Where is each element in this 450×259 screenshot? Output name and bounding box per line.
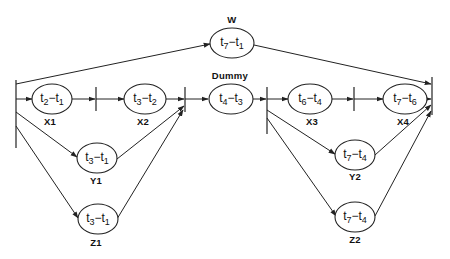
node-y2-expr: t7−t4 [343, 147, 367, 163]
node-w-expr: t7−t1 [220, 35, 244, 51]
node-z1-expr: t3−t1 [86, 211, 110, 227]
node-x1-expr: t2−t1 [40, 91, 64, 107]
node-z1-name: Z1 [90, 237, 102, 248]
node-x3-name: X3 [306, 116, 318, 127]
node-y1-expr: t3−t1 [85, 150, 109, 166]
edge-z1-merge [117, 110, 183, 219]
node-w-name: W [227, 14, 236, 25]
node-x2-name: X2 [137, 116, 149, 127]
edge-start-z1 [16, 126, 78, 218]
node-dummy-expr: t4−t3 [219, 91, 243, 107]
node-x2-expr: t3−t2 [133, 91, 157, 107]
node-x3-expr: t6−t4 [298, 91, 322, 107]
edge-start-w [16, 44, 210, 84]
node-z2-name: Z2 [349, 234, 361, 245]
edge-w-end [254, 45, 431, 84]
node-x4-name: X4 [397, 116, 409, 127]
node-x4-expr: t7−t6 [393, 91, 417, 107]
node-z2-expr: t7−t4 [343, 209, 367, 225]
node-y2-name: Y2 [349, 171, 361, 182]
node-dummy-name: Dummy [212, 70, 248, 81]
node-x1-name: X1 [44, 116, 56, 127]
node-y1-name: Y1 [90, 175, 102, 186]
